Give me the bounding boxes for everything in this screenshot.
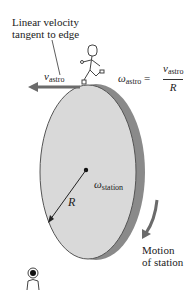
fraction-bar bbox=[163, 79, 183, 80]
velocity-arrowhead bbox=[28, 82, 38, 92]
linear-velocity-label: Linear velocity tangent to edge bbox=[12, 16, 79, 40]
observer-astronaut-icon bbox=[27, 268, 39, 290]
astronaut-running-icon bbox=[81, 45, 105, 84]
v-astro-label: vastro bbox=[44, 70, 64, 86]
omega-station-label: ωstation bbox=[94, 178, 123, 194]
motion-arrow bbox=[146, 200, 157, 233]
motion-of-station-label: Motion of station bbox=[142, 244, 183, 268]
omega-astro-equation: ωastro = bbox=[118, 72, 150, 88]
equation-fraction: vastro R bbox=[163, 62, 183, 93]
station-disk bbox=[40, 85, 136, 259]
radius-label: R bbox=[68, 196, 75, 208]
